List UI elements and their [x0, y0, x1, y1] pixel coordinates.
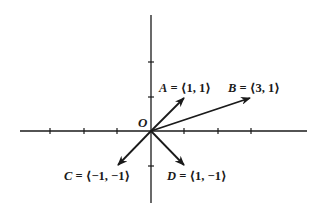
vector-c-label: C = ⟨−1, −1⟩: [64, 169, 130, 183]
vector-diagram: O A = ⟨1, 1⟩ B = ⟨3, 1⟩ C = ⟨−1, −1⟩ D =…: [0, 0, 325, 212]
vector-d-arrow: [151, 131, 184, 165]
vector-a-label: A = ⟨1, 1⟩: [158, 81, 211, 95]
vector-b-arrow: [151, 98, 250, 131]
origin-label: O: [138, 115, 148, 130]
vector-c-arrow: [118, 131, 151, 165]
coordinate-plane: O A = ⟨1, 1⟩ B = ⟨3, 1⟩ C = ⟨−1, −1⟩ D =…: [0, 0, 325, 212]
vector-d-label: D = ⟨1, −1⟩: [166, 169, 227, 183]
vector-b-label: B = ⟨3, 1⟩: [227, 81, 280, 95]
